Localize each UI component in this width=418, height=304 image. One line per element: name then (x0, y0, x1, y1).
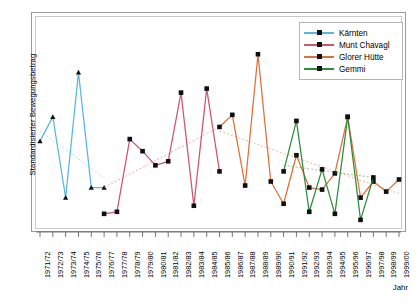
data-point (320, 187, 325, 192)
chart-legend: KärntenMunt ChavaglGlorer HütteGemmi (299, 22, 403, 80)
data-point (192, 203, 197, 208)
x-tick-label: 1995/96 (351, 251, 360, 278)
y-axis-label: Standardisierter Bewegungsbetrag (28, 20, 37, 210)
legend-label: Kärnten (339, 29, 368, 38)
data-point (333, 212, 338, 217)
data-point (256, 52, 261, 57)
x-tick-label: 1976/77 (107, 251, 116, 278)
legend-item[interactable]: Kärnten (304, 27, 398, 39)
x-tick-label: 1986/87 (236, 251, 245, 278)
data-point (307, 210, 312, 215)
data-point (50, 114, 55, 119)
data-point (358, 195, 363, 200)
x-tick-label: 1984/85 (210, 251, 219, 278)
x-tick-label: 1980/81 (159, 251, 168, 278)
x-tick-label: 1996/97 (364, 251, 373, 278)
x-tick-label: 1974/75 (82, 251, 91, 278)
data-point (371, 175, 376, 180)
data-point (397, 177, 402, 182)
data-point (358, 218, 363, 223)
data-point (115, 210, 120, 215)
data-point (294, 119, 299, 124)
x-tick-label: 1971/72 (43, 251, 52, 278)
series-k-rnten (37, 70, 106, 200)
data-point (76, 70, 81, 75)
x-tick-label: 1982/83 (184, 251, 193, 278)
legend-item[interactable]: Munt Chavagl (304, 39, 398, 51)
data-point (333, 171, 338, 176)
series-line (104, 89, 219, 214)
data-point (345, 115, 350, 120)
x-tick-label: 1989/90 (274, 251, 283, 278)
chart-container: Standardisierter Bewegungsbetrag Jahr 19… (0, 0, 418, 304)
x-tick-label: 1993/94 (325, 251, 334, 278)
data-point (37, 139, 42, 144)
x-tick-label: 1988/89 (261, 251, 270, 278)
legend-swatch-icon (304, 40, 334, 50)
trend-line (284, 165, 374, 177)
legend-label: Munt Chavagl (339, 41, 390, 50)
data-point (230, 113, 235, 118)
series-line (40, 72, 104, 197)
legend-swatch-icon (304, 52, 334, 62)
data-point (243, 183, 248, 188)
data-point (102, 212, 107, 217)
data-point (281, 169, 286, 174)
x-tick-label: 1979/80 (146, 251, 155, 278)
legend-item[interactable]: Glorer Hütte (304, 51, 398, 63)
legend-swatch-icon (304, 28, 334, 38)
data-point (268, 179, 273, 184)
x-tick-label: 1983/84 (197, 251, 206, 278)
x-tick-label: 1992/93 (312, 251, 321, 278)
trend-line (104, 127, 219, 188)
x-tick-label: 1985/86 (223, 251, 232, 278)
data-point (204, 86, 209, 91)
x-tick-label: 1981/82 (171, 251, 180, 278)
x-tick-label: 1973/74 (69, 251, 78, 278)
series-munt-chavagl (102, 86, 222, 216)
x-tick-label: 1994/95 (338, 251, 347, 278)
legend-label: Glorer Hütte (339, 53, 384, 62)
x-tick-label: 1977/78 (120, 251, 129, 278)
x-tick-label: 1998/99 (389, 251, 398, 278)
data-point (320, 167, 325, 172)
data-point (217, 125, 222, 130)
data-point (281, 201, 286, 206)
data-point (179, 90, 184, 95)
data-point (140, 149, 145, 154)
x-tick-label: 1978/79 (133, 251, 142, 278)
series-line (284, 117, 374, 220)
x-axis (36, 232, 401, 237)
x-tick-label: 1997/98 (377, 251, 386, 278)
data-point (217, 169, 222, 174)
data-point (127, 137, 132, 142)
x-tick-label: 1975/76 (94, 251, 103, 278)
data-point (166, 159, 171, 164)
x-tick-label: 1987/88 (248, 251, 257, 278)
legend-label: Gemmi (339, 65, 365, 74)
legend-swatch-icon (304, 64, 334, 74)
data-point (63, 195, 68, 200)
data-point (153, 163, 158, 168)
x-tick-label: 1999/00 (402, 251, 411, 278)
data-point (307, 185, 312, 190)
x-axis-label: Jahr (393, 283, 408, 292)
x-tick-label: 1972/73 (56, 251, 65, 278)
data-point (294, 153, 299, 158)
series-gemmi (281, 115, 375, 223)
legend-item[interactable]: Gemmi (304, 63, 398, 75)
x-tick-label: 1991/92 (300, 251, 309, 278)
data-point (384, 189, 389, 194)
x-tick-label: 1990/91 (287, 251, 296, 278)
